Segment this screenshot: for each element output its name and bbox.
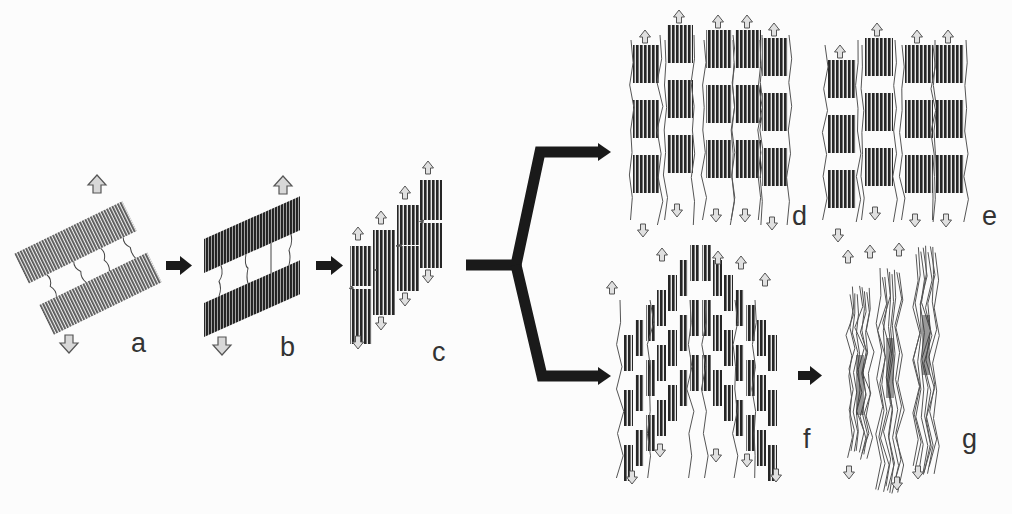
tensile-arrow-down (767, 217, 778, 230)
branch-arrowhead-lower (598, 367, 611, 385)
tensile-arrow-down (833, 229, 844, 242)
lamella-lower (204, 260, 300, 337)
diagram-canvas: a b c d e f (0, 0, 1012, 514)
lamella-block (420, 223, 442, 268)
tensile-arrow-up (640, 30, 651, 43)
flow-arrow-b-c (316, 256, 343, 275)
tensile-arrow-down (638, 224, 649, 237)
lamella-block (828, 115, 856, 153)
lamella-block (936, 45, 964, 83)
tensile-arrow-down (742, 454, 753, 467)
tensile-arrow-down (655, 444, 666, 457)
stage-e (822, 23, 968, 242)
fibril (893, 40, 898, 222)
tensile-arrow-down (423, 270, 434, 283)
tensile-arrow-down (711, 209, 722, 222)
lamella-block (668, 385, 677, 421)
tensile-arrow-up (843, 250, 854, 263)
lamella-block (757, 375, 766, 411)
lamella-block (706, 85, 732, 123)
label-g: g (962, 424, 977, 454)
stage-f (607, 245, 782, 484)
lamella-block (735, 85, 761, 123)
lamella-block (713, 315, 722, 351)
tensile-arrow-up (894, 243, 905, 256)
lamella-block (635, 320, 644, 356)
lamella-block (762, 148, 788, 186)
fibril (691, 35, 695, 225)
fibril (733, 300, 738, 478)
label-e: e (982, 201, 997, 231)
lamella-block (702, 245, 711, 281)
fibril (856, 40, 861, 222)
tensile-arrow-down (740, 209, 751, 222)
fibril (349, 286, 353, 289)
fibril (822, 45, 828, 220)
lamella-block (668, 275, 677, 311)
lamella-block (865, 38, 893, 76)
tensile-arrow-down (910, 214, 921, 227)
tensile-arrow-up (274, 176, 292, 194)
tensile-arrow-up (736, 256, 747, 269)
lamella-block (657, 290, 666, 326)
tensile-arrow-up (88, 175, 106, 193)
tensile-arrow-up (353, 227, 364, 240)
lamella-block (690, 245, 699, 281)
tensile-arrow-down (400, 293, 411, 306)
stage-g (843, 243, 940, 494)
lamella-block (936, 155, 964, 193)
fibril (899, 45, 905, 220)
tensile-arrow-down (376, 317, 387, 330)
lamella-block (905, 155, 933, 193)
lamella-stack-b (204, 196, 300, 337)
lamella-block (905, 100, 933, 138)
flow-arrow-a-b (166, 256, 192, 275)
lamella-block (633, 100, 659, 138)
tensile-arrow-down (941, 214, 952, 227)
lamella-block (373, 230, 395, 270)
tensile-arrow-up (769, 23, 780, 36)
lamella-block (668, 330, 677, 366)
stage-d (629, 10, 791, 237)
tensile-arrow-up (657, 248, 668, 261)
tensile-arrow-up (742, 15, 753, 28)
fibril (876, 268, 883, 489)
lamella-block (667, 80, 693, 118)
label-f: f (803, 424, 811, 454)
lamella-block (724, 385, 733, 421)
tensile-arrow-up (423, 161, 434, 174)
label-a: a (131, 328, 147, 358)
lamella-stack-a (14, 201, 161, 334)
flow-arrow-f-g (798, 366, 822, 385)
lamella-block (713, 370, 722, 406)
lamella-block (373, 270, 395, 315)
fibril (396, 245, 402, 246)
lamella-block (702, 300, 711, 336)
lamella-block (706, 30, 732, 68)
lamella-block (735, 345, 744, 381)
lamella-block (350, 246, 372, 286)
tensile-arrow-up (760, 273, 771, 286)
tensile-arrow-up (607, 281, 618, 294)
lamella-block (768, 390, 777, 426)
lamella-block (667, 135, 693, 173)
stage-c: c (349, 161, 445, 367)
stage-a: a (14, 175, 161, 358)
lamella-block (702, 355, 711, 391)
label-c: c (432, 337, 446, 367)
lamella-block (724, 275, 733, 311)
lamella-upper (204, 196, 300, 273)
tensile-arrow-up (376, 211, 387, 224)
tensile-arrow-up (865, 245, 876, 258)
tensile-arrow-up (943, 30, 954, 43)
fibril (420, 220, 424, 223)
fibril (663, 40, 667, 220)
lamella-block (828, 170, 856, 208)
lamella-block (828, 60, 856, 98)
branch-arrow (466, 143, 611, 385)
lamella-block (397, 246, 419, 291)
lamella-block (762, 93, 788, 131)
lamella-block (735, 140, 761, 178)
tensile-arrow-up (872, 23, 883, 36)
lamella-block (397, 205, 419, 245)
